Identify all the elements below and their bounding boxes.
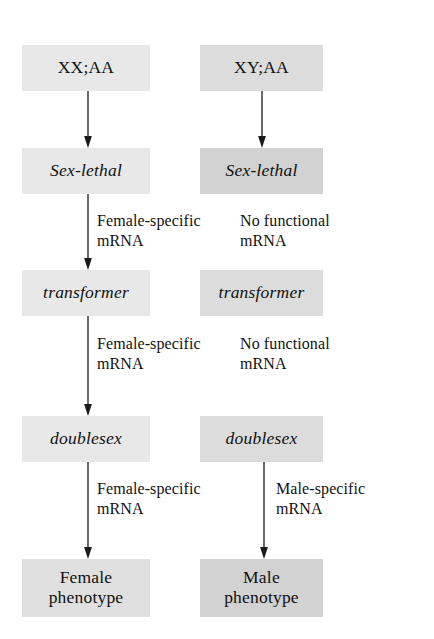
edge-label-line1: Female-specific (97, 212, 201, 229)
edge-label-line2: mRNA (276, 499, 365, 519)
node-phenotype-male: Male phenotype (200, 559, 323, 617)
node-karyotype-male: XY;AA (200, 45, 323, 91)
node-label: doublesex (226, 429, 298, 449)
edge-label-sxl-to-transformer-male: No functional mRNA (240, 211, 330, 250)
node-label: transformer (43, 283, 129, 303)
arrow-karyotype-male-to-sxl (256, 91, 268, 148)
edge-label-line1: No functional (240, 335, 330, 352)
edge-label-line2: mRNA (97, 499, 201, 519)
edge-label-transformer-to-doublesex-male: No functional mRNA (240, 334, 330, 373)
arrow-doublesex-to-phenotype-female (82, 462, 94, 559)
edge-label-line1: No functional (240, 212, 330, 229)
node-label-line2: phenotype (224, 587, 299, 607)
edge-label-line1: Female-specific (97, 335, 201, 352)
node-label: XX;AA (58, 58, 114, 78)
arrow-sxl-to-transformer-female (82, 194, 94, 270)
arrow-doublesex-to-phenotype-male (258, 462, 270, 559)
node-label-line1: Male (243, 567, 280, 587)
node-label-block: Male phenotype (224, 568, 299, 607)
sex-determination-diagram: XX;AA XY;AA Sex-lethal Sex-lethal Female… (0, 0, 434, 639)
node-label: Sex-lethal (226, 161, 298, 181)
node-label: doublesex (50, 429, 122, 449)
edge-label-transformer-to-doublesex-female: Female-specific mRNA (97, 334, 201, 373)
node-label-line2: phenotype (49, 587, 124, 607)
node-label-block: Female phenotype (49, 568, 124, 607)
node-doublesex-male: doublesex (200, 416, 323, 462)
edge-label-sxl-to-transformer-female: Female-specific mRNA (97, 211, 201, 250)
edge-label-line1: Female-specific (97, 480, 201, 497)
node-label-line1: Female (60, 567, 113, 587)
node-karyotype-female: XX;AA (22, 45, 150, 91)
edge-label-line1: Male-specific (276, 480, 365, 497)
node-phenotype-female: Female phenotype (22, 559, 150, 617)
edge-label-doublesex-to-phenotype-female: Female-specific mRNA (97, 479, 201, 518)
edge-label-line2: mRNA (97, 231, 201, 251)
arrow-karyotype-female-to-sxl (82, 91, 94, 148)
edge-label-line2: mRNA (97, 354, 201, 374)
node-sxl-male: Sex-lethal (200, 148, 323, 194)
edge-label-doublesex-to-phenotype-male: Male-specific mRNA (276, 479, 365, 518)
node-label: transformer (219, 283, 305, 303)
node-transformer-male: transformer (200, 270, 323, 316)
node-sxl-female: Sex-lethal (22, 148, 150, 194)
arrow-transformer-to-doublesex-female (82, 316, 94, 416)
node-label: XY;AA (234, 58, 289, 78)
edge-label-line2: mRNA (240, 354, 330, 374)
node-doublesex-female: doublesex (22, 416, 150, 462)
node-transformer-female: transformer (22, 270, 150, 316)
node-label: Sex-lethal (50, 161, 122, 181)
edge-label-line2: mRNA (240, 231, 330, 251)
